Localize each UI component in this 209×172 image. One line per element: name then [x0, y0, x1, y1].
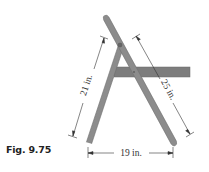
figure-canvas: 21 in. 25 in. 19 in. Fig. 9.75 [0, 0, 209, 172]
seat-pin [133, 71, 135, 73]
dimension-label-back-leg: 25 in. [159, 78, 178, 102]
pivot-pin [118, 43, 122, 47]
dimension-label-front-leg: 21 in. [78, 73, 94, 97]
seat [114, 67, 190, 77]
figure-caption: Fig. 9.75 [6, 144, 51, 155]
dimension-label-base-span: 19 in. [120, 148, 142, 158]
front-leg [86, 45, 123, 144]
